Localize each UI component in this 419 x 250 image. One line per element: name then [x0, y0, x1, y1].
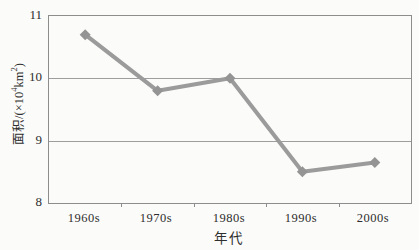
y-tick-label-10: 10	[0, 70, 42, 84]
y-axis-title-close: )	[12, 63, 26, 67]
x-tick-label-2000s: 2000s	[341, 211, 405, 226]
x-axis-tick	[121, 203, 122, 207]
x-tick-label-1960s: 1960s	[52, 211, 116, 226]
line-chart-figure: 面积/(×104km2) 11 10 9 8 1960s 1970s 1980s…	[0, 0, 419, 250]
x-tick-label-1980s: 1980s	[197, 211, 261, 226]
x-axis-tick	[194, 203, 195, 207]
y-tick-label-8: 8	[0, 195, 42, 209]
series-line	[85, 35, 375, 172]
y-tick-label-9: 9	[0, 133, 42, 147]
data-point-marker	[369, 157, 380, 168]
y-axis-exponent: 4	[9, 87, 19, 91]
x-tick-label-1990s: 1990s	[269, 211, 333, 226]
y-tick-label-11: 11	[0, 8, 42, 22]
plot-area	[48, 15, 412, 204]
x-axis-tick	[339, 203, 340, 207]
x-axis-tick	[266, 203, 267, 207]
x-tick-label-1970s: 1970s	[124, 211, 188, 226]
data-series-svg	[49, 16, 411, 203]
x-axis-title: 年代	[189, 227, 269, 247]
